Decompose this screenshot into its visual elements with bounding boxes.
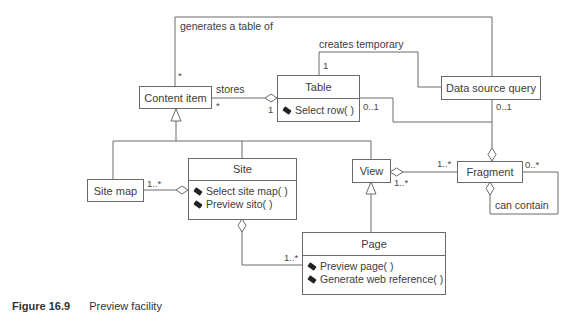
label-creates-temporary: creates temporary [319,38,404,50]
mult-site-page: 1..* [284,252,298,263]
aggregation-diamond-site-bottom [238,219,246,232]
class-data-source-query[interactable]: Data source query [441,76,541,100]
mult-stores-content-item: * [216,100,220,111]
aggregation-diamond-fragment-top [488,148,496,161]
table-fragment-line [359,98,492,122]
operation-icon [193,187,202,196]
operation-icon [282,106,291,115]
class-fragment[interactable]: Fragment [457,161,523,183]
class-site-map[interactable]: Site map [87,179,144,202]
figure-number: Figure 16.9 [12,300,70,312]
class-name: Site map [94,185,137,197]
aggregation-diamond-table [265,94,277,102]
operation-preview-site: Preview sito( ) [189,198,296,211]
class-name: Table [278,76,359,98]
mult-stores-table: 1 [268,104,273,115]
aggregation-diamond-site [176,186,188,194]
class-view[interactable]: View [352,159,391,183]
class-name: Content item [144,92,206,104]
mult-generates-content-item: * [178,70,182,81]
mult-creates-table: 1 [323,60,328,71]
label-can-contain: can contain [495,199,549,211]
class-name: Data source query [446,82,536,94]
mult-table-fragment: 0..1 [363,101,379,112]
class-name: Page [303,233,445,255]
mult-site-map-site: 1..* [147,178,161,189]
generalization-triangle-content-item [171,109,181,121]
mult-fragment-self: 0..* [525,159,539,170]
operation-select-row: Select row( ) [278,99,359,122]
mult-view-fragment-fragment: 1..* [437,158,451,169]
operation-select-site-map: Select site map( ) [189,185,296,198]
generalization-triangle-view [366,182,376,194]
operation-preview-page: Preview page( ) [303,260,445,273]
operation-generate-web-reference: Generate web reference( ) [303,273,445,286]
class-name: Fragment [466,166,513,178]
label-stores: stores [216,83,245,95]
class-name: View [360,165,384,177]
operation-icon [193,200,202,209]
class-site[interactable]: Site Select site map( ) Preview sito( ) [188,158,297,220]
aggregation-diamond-fragment-bottom [486,182,494,195]
operation-icon [307,275,316,284]
class-name: Site [189,159,296,180]
class-content-item[interactable]: Content item [139,86,212,109]
mult-view-fragment-view: 1..* [394,177,408,188]
figure-caption: Figure 16.9 Preview facility [12,300,162,312]
class-page[interactable]: Page Preview page( ) Generate web refere… [302,232,446,295]
figure-title: Preview facility [89,300,162,312]
operation-icon [307,262,316,271]
label-generates: generates a table of [180,20,273,32]
class-table[interactable]: Table Select row( ) [277,75,360,122]
aggregation-diamond-view [390,168,403,176]
mult-dsq-fragment: 0..1 [496,101,512,112]
